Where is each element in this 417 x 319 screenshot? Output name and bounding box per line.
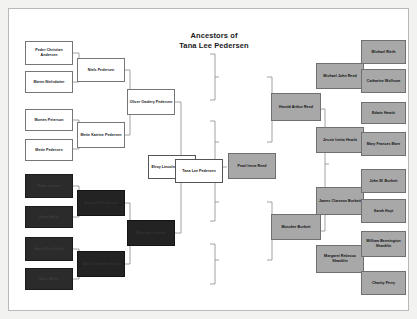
person-name: Anne Marie xyxy=(27,215,71,220)
person-name: Morten Peterson xyxy=(27,118,71,123)
title-line-2: Tana Lee Pedersen xyxy=(119,41,309,51)
person-node[interactable]: Sarah Hoyt xyxy=(361,199,406,223)
person-name: Mette Katrine Pedersen xyxy=(79,133,123,138)
person-node[interactable]: Hans Peter Beck xyxy=(25,237,73,261)
person-node[interactable]: Jessie Izetta Hewitt xyxy=(316,127,364,153)
person-node[interactable]: Michael Rieth xyxy=(361,40,406,64)
person-node[interactable]: Edwin Hewitt xyxy=(361,102,406,124)
person-name: Hans Peter Beck xyxy=(27,247,71,252)
person-name: William Bennington Shanklin xyxy=(363,239,404,248)
person-node-mother[interactable]: Pearl Irene Reed xyxy=(228,153,276,179)
person-node[interactable]: Harold Arthur Reed xyxy=(271,93,321,121)
person-node[interactable]: James Clarence Burkett xyxy=(316,187,364,215)
person-node[interactable]: Mary Ann Jensen xyxy=(127,220,175,246)
person-name: Mary Ann Jensen xyxy=(129,231,173,236)
person-node[interactable]: Soren Peter Jensen xyxy=(77,190,125,216)
chart-page-sheet: Ancestors of Tana Lee Pedersen xyxy=(8,8,409,311)
person-name: John W. Burkett xyxy=(363,179,404,184)
person-node[interactable]: Catharine Wolfsom xyxy=(361,69,406,93)
person-node[interactable]: Anne Marie xyxy=(25,206,73,228)
person-node[interactable]: Mary Miller xyxy=(25,268,73,290)
chart-canvas: Ancestors of Tana Lee Pedersen xyxy=(9,9,410,312)
title-line-1: Ancestors of xyxy=(119,31,309,41)
person-node[interactable]: Oliver Owdery Pedersen xyxy=(127,89,175,115)
person-name: Moscher Burkett xyxy=(273,225,319,230)
person-name: James Clarence Burkett xyxy=(318,199,362,204)
person-name: Peter Jensen xyxy=(27,184,71,189)
page-title: Ancestors of Tana Lee Pedersen xyxy=(119,31,309,51)
person-node[interactable]: Mary Frances Mare xyxy=(361,132,406,156)
person-name: Mary Frances Mare xyxy=(363,142,404,147)
person-name: Niels Pedersen xyxy=(79,68,123,73)
person-name: Harold Arthur Reed xyxy=(273,105,319,110)
screenshot-canvas: Ancestors of Tana Lee Pedersen xyxy=(0,0,417,319)
person-node[interactable]: Mette Katrine Pedersen xyxy=(77,122,125,148)
person-node[interactable]: Mette Pedersen xyxy=(25,139,73,161)
person-node[interactable]: Margaret Rebecca Shanklin xyxy=(316,245,364,273)
person-name: Tana Lee Pedersen xyxy=(177,169,221,174)
person-node[interactable]: Morten Peterson xyxy=(25,109,73,131)
person-node[interactable]: Niels Pedersen xyxy=(77,58,125,82)
person-node[interactable]: Peder Christian Andersen xyxy=(25,41,73,65)
person-node[interactable]: Peter Jensen xyxy=(25,174,73,198)
person-name: Mette Pedersen xyxy=(27,148,71,153)
person-name: Catharine Wolfsom xyxy=(363,79,404,84)
person-name: Peder Christian Andersen xyxy=(27,48,71,57)
person-node[interactable]: Anna Christine Beck xyxy=(77,251,125,277)
person-node[interactable]: Charity Perry xyxy=(361,271,406,295)
person-name: Charity Perry xyxy=(363,281,404,286)
person-node[interactable]: John W. Burkett xyxy=(361,169,406,193)
person-name: Michael John Reed xyxy=(318,74,362,79)
person-name: Edwin Hewitt xyxy=(363,111,404,116)
person-name: Oliver Owdery Pedersen xyxy=(129,100,173,105)
person-node[interactable]: Michael John Reed xyxy=(316,63,364,89)
person-name: Margaret Rebecca Shanklin xyxy=(318,254,362,263)
person-name: Maren Nielsdatter xyxy=(27,80,71,85)
person-name: Mary Miller xyxy=(27,277,71,282)
person-node[interactable]: Maren Nielsdatter xyxy=(25,71,73,93)
person-name: Jessie Izetta Hewitt xyxy=(318,138,362,143)
person-name: Soren Peter Jensen xyxy=(79,201,123,206)
person-name: Anna Christine Beck xyxy=(79,262,123,267)
person-name: Michael Rieth xyxy=(363,50,404,55)
person-name: Pearl Irene Reed xyxy=(230,164,274,169)
person-node[interactable]: William Bennington Shanklin xyxy=(361,231,406,257)
person-node-root[interactable]: Tana Lee Pedersen xyxy=(175,159,223,183)
person-name: Sarah Hoyt xyxy=(363,209,404,214)
person-node[interactable]: Moscher Burkett xyxy=(271,214,321,240)
